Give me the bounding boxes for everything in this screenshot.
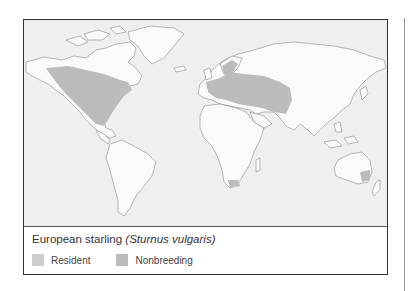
greenland — [128, 26, 184, 64]
nonbreeding-swatch — [116, 254, 128, 266]
range-south-africa — [228, 180, 240, 188]
south-america — [106, 140, 156, 216]
map-legend: Resident Nonbreeding — [32, 254, 219, 266]
resident-swatch — [32, 254, 44, 266]
common-name: European starling — [32, 233, 122, 245]
page-divider — [404, 18, 405, 291]
scientific-name: (Sturnus vulgaris) — [125, 233, 215, 245]
map-caption: European starling (Sturnus vulgaris) — [32, 233, 215, 245]
legend-item-resident: Resident — [32, 254, 90, 266]
legend-label: Resident — [51, 255, 90, 266]
range-map-figure: European starling (Sturnus vulgaris) Res… — [23, 19, 388, 275]
world-range-map — [24, 20, 387, 227]
legend-label: Nonbreeding — [135, 255, 192, 266]
legend-item-nonbreeding: Nonbreeding — [116, 254, 192, 266]
